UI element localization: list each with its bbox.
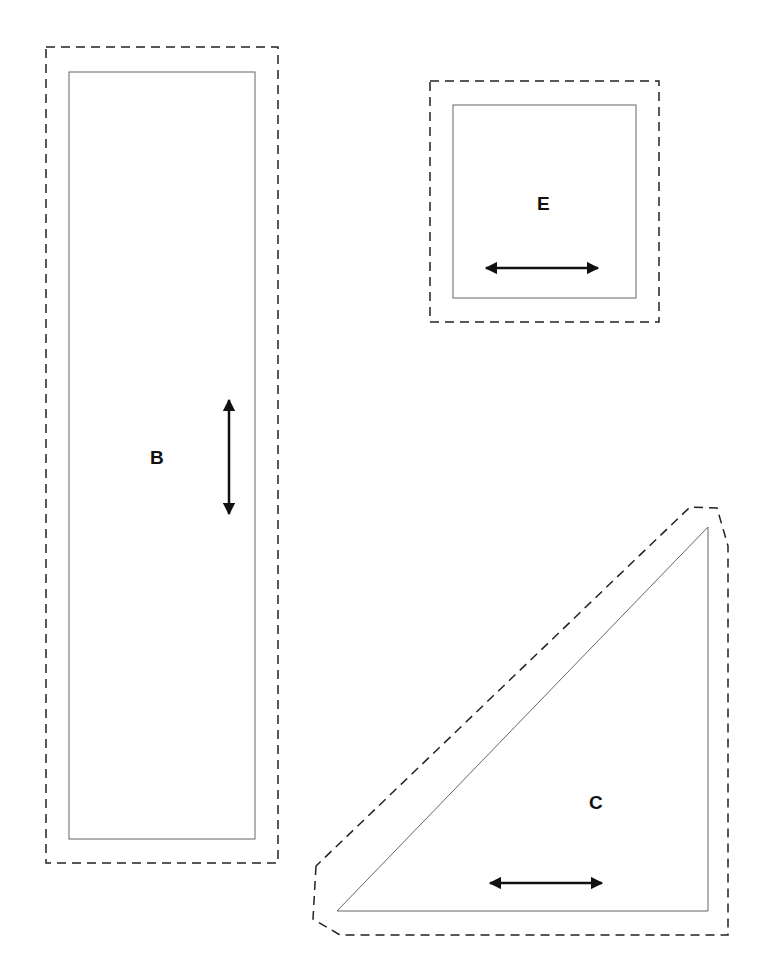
piece-e: E (430, 81, 659, 322)
piece-b: B (46, 47, 278, 863)
piece-c-label: C (589, 792, 603, 813)
piece-c-seam-line (337, 527, 708, 911)
piece-e-label: E (537, 193, 550, 214)
pattern-diagram: B E C (0, 0, 776, 974)
piece-c: C (313, 507, 728, 935)
piece-b-label: B (150, 447, 164, 468)
